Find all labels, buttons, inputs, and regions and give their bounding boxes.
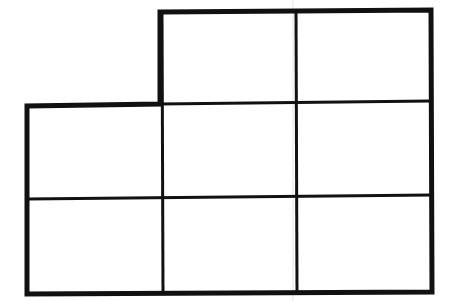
polyomino-grid-figure — [0, 0, 450, 301]
horizontal-line-1 — [160, 101, 431, 104]
outer-boundary — [27, 10, 432, 294]
inner-grid-lines — [27, 11, 432, 293]
horizontal-line-2 — [27, 195, 432, 199]
grid-diagram — [0, 0, 450, 301]
vertical-line-2 — [296, 11, 297, 293]
